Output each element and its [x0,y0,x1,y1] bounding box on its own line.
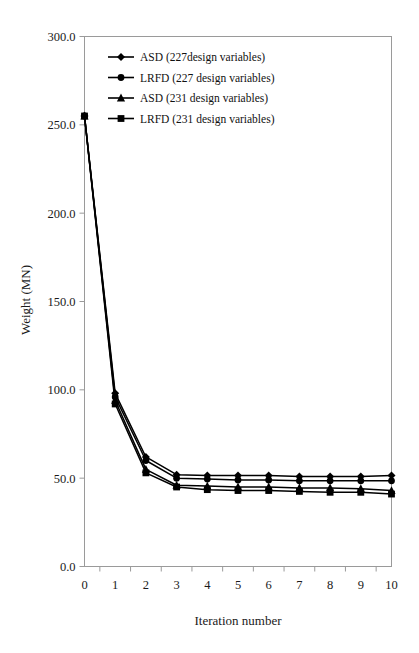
y-tick-label: 300.0 [47,30,75,44]
x-tick-label: 8 [327,578,333,592]
data-point-square [388,491,395,498]
x-tick-label: 10 [385,578,398,592]
x-tick-label: 0 [81,578,87,592]
data-point-square [265,487,272,494]
data-point-square [118,115,125,122]
data-point-square [112,401,119,408]
x-tick-label: 9 [358,578,364,592]
y-tick-label: 250.0 [47,118,75,132]
data-point-circle [265,477,272,484]
data-point-circle [388,477,395,484]
y-tick-label: 50.0 [54,472,76,486]
data-point-circle [118,74,125,81]
data-point-square [357,489,364,496]
data-point-circle [327,477,334,484]
x-axis-title: Iteration number [195,613,283,628]
y-tick-label: 200.0 [47,207,75,221]
data-point-square [296,488,303,495]
data-point-circle [204,476,211,483]
data-point-square [204,486,211,493]
x-tick-label: 1 [112,578,118,592]
data-point-circle [173,475,180,482]
data-point-square [327,489,334,496]
y-axis-title: Weight (MN) [18,265,33,335]
data-point-square [143,469,150,476]
data-point-square [173,484,180,491]
data-point-circle [235,477,242,484]
y-tick-label: 100.0 [47,383,75,397]
weight-convergence-chart: 0.050.0100.0150.0200.0250.0300.0 0123456… [0,0,419,653]
x-tick-label: 2 [143,578,149,592]
y-tick-label: 0.0 [60,560,76,574]
x-tick-label: 6 [266,578,272,592]
legend-label: ASD (227design variables) [140,51,265,64]
data-point-circle [357,477,364,484]
legend-label: LRFD (231 design variables) [140,113,275,126]
data-point-square [81,113,88,120]
x-tick-label: 4 [204,578,211,592]
x-tick-label: 7 [296,578,302,592]
y-tick-label: 150.0 [47,295,75,309]
data-point-circle [296,477,303,484]
x-tick-label: 5 [235,578,241,592]
legend-label: ASD (231 design variables) [140,92,268,105]
chart-canvas: 0.050.0100.0150.0200.0250.0300.0 0123456… [0,0,419,653]
legend-label: LRFD (227 design variables) [140,72,275,85]
data-point-square [235,487,242,494]
x-tick-label: 3 [173,578,179,592]
